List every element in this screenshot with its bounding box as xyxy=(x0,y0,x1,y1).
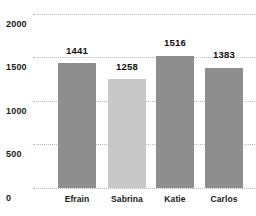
bar-watermark-efrain: Efrain Efrain Efrain Efrain Efrain Efrai… xyxy=(58,63,96,188)
value-label-efrain: 1441 xyxy=(49,45,105,56)
bar-carlos[interactable]: Carlos Carlos Carlos Carlos Carlos Carlo… xyxy=(205,68,243,188)
bar-watermark-katie: Katie Katie Katie Katie Katie Katie Kati… xyxy=(156,56,194,188)
category-label-carlos: Carlos xyxy=(196,194,252,204)
value-label-sabrina: 1258 xyxy=(99,61,155,72)
category-label-katie: Katie xyxy=(147,194,203,204)
bar-watermark-carlos: Carlos Carlos Carlos Carlos Carlos Carlo… xyxy=(205,68,243,188)
bar-watermark-sabrina: Sabrina Sabrina Sabrina Sabrina Sabrina … xyxy=(108,79,146,188)
bar-efrain[interactable]: Efrain Efrain Efrain Efrain Efrain Efrai… xyxy=(58,63,96,188)
category-label-efrain: Efrain xyxy=(49,194,105,204)
bar-katie[interactable]: Katie Katie Katie Katie Katie Katie Kati… xyxy=(156,56,194,188)
value-label-carlos: 1383 xyxy=(196,49,252,60)
value-label-katie: 1516 xyxy=(147,37,203,48)
bars-layer: Efrain Efrain Efrain Efrain Efrain Efrai… xyxy=(0,0,256,216)
bar-sabrina[interactable]: Sabrina Sabrina Sabrina Sabrina Sabrina … xyxy=(108,79,146,188)
bar-chart: 2000 1500 1000 500 0 Efrain Efrain Efrai… xyxy=(0,0,256,216)
